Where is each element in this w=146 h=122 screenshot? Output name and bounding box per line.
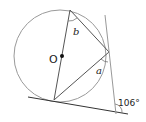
angle-arc-b: [68, 18, 77, 21]
center-label: O: [49, 53, 58, 66]
angle-label-106: 106°: [118, 98, 140, 108]
chord-right-to-bottom: [54, 52, 109, 100]
geometry-diagram: O b a 106°: [0, 0, 146, 122]
angle-arc-a: [101, 59, 108, 62]
angle-label-b: b: [73, 26, 79, 37]
center-dot: [60, 54, 64, 58]
tangent-bottom: [28, 97, 128, 114]
angle-label-a: a: [96, 65, 102, 76]
tangent-right: [105, 15, 116, 114]
